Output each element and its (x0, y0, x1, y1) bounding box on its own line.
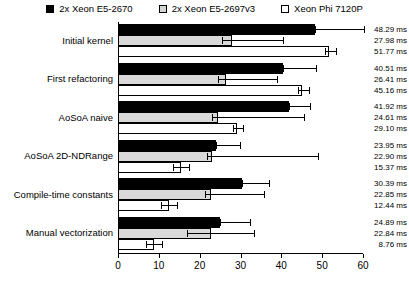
legend-swatch-icon-series-0 (46, 5, 54, 13)
bar-series-0 (118, 217, 220, 228)
error-bar-cap-high (189, 164, 190, 171)
bar-series-1 (118, 74, 226, 85)
error-bar-cap-low (298, 87, 299, 94)
error-bar-line (325, 51, 335, 52)
legend-swatch-icon-series-2 (281, 5, 289, 13)
x-axis-tick-label: 0 (115, 260, 121, 271)
benchmark-bar-chart: 2x Xeon E5-2670 2x Xeon E5-2697v3 Xeon P… (0, 0, 409, 283)
x-axis-tick (118, 254, 119, 258)
x-axis-tick (200, 254, 201, 258)
error-bar-line (212, 117, 304, 118)
error-bar-cap-high (316, 65, 317, 72)
error-bar-cap-low (289, 103, 290, 110)
bar-row (118, 46, 363, 57)
legend-label-series-2: Xeon Phi 7120P (294, 4, 363, 14)
x-axis-tick-label: 10 (153, 260, 164, 271)
bar-series-2 (118, 85, 302, 96)
error-bar-cap-low (315, 26, 316, 33)
value-label: 22.85 ms (366, 190, 409, 199)
value-label: 29.10 ms (366, 124, 409, 133)
x-axis-tick (322, 254, 323, 258)
category-label: First refactoring (0, 73, 113, 84)
bar-row (118, 74, 363, 85)
value-label: 30.39 ms (366, 179, 409, 188)
error-bar-line (173, 167, 189, 168)
bar-series-1 (118, 189, 211, 200)
value-label: 23.95 ms (366, 141, 409, 150)
error-bar-cap-high (310, 103, 311, 110)
error-bar-cap-low (161, 202, 162, 209)
value-label: 51.77 ms (366, 47, 409, 56)
x-axis-tick (241, 254, 242, 258)
error-bar-line (161, 205, 177, 206)
error-bar-cap-low (216, 142, 217, 149)
error-bar-cap-low (205, 191, 206, 198)
error-bar-cap-low (283, 65, 284, 72)
bar-series-0 (118, 178, 242, 189)
legend-item-series-2: Xeon Phi 7120P (281, 4, 363, 14)
error-bar-cap-high (336, 48, 337, 55)
error-bar-cap-high (304, 114, 305, 121)
error-bar-cap-high (264, 191, 265, 198)
error-bar-line (207, 156, 317, 157)
category-label: AoSoA 2D-NDRange (0, 150, 113, 161)
value-label: 48.29 ms (366, 25, 409, 34)
error-bar-line (298, 90, 308, 91)
error-bar-line (187, 233, 254, 234)
error-bar-cap-low (146, 241, 147, 248)
error-bar-line (315, 29, 364, 30)
bar-row (118, 112, 363, 123)
bar-row (118, 228, 363, 239)
error-bar-line (220, 222, 251, 223)
bar-series-0 (118, 24, 315, 35)
error-bar-line (218, 79, 277, 80)
value-label: 26.41 ms (366, 75, 409, 84)
legend-label-series-1: 2x Xeon E5-2697v3 (172, 4, 255, 14)
category-label: Manual vectorization (0, 227, 113, 238)
error-bar-line (242, 183, 269, 184)
x-axis-tick-label: 30 (235, 260, 246, 271)
chart-legend: 2x Xeon E5-2670 2x Xeon E5-2697v3 Xeon P… (0, 0, 409, 18)
bar-row (118, 63, 363, 74)
bar-row (118, 200, 363, 211)
legend-label-series-0: 2x Xeon E5-2670 (59, 4, 132, 14)
error-bar-cap-high (309, 87, 310, 94)
error-bar-line (289, 106, 309, 107)
error-bar-line (216, 145, 241, 146)
bar-row (118, 101, 363, 112)
category-label: Initial kernel (0, 35, 113, 46)
bar-row (118, 151, 363, 162)
value-label: 15.37 ms (366, 163, 409, 172)
x-axis-tick-label: 60 (357, 260, 368, 271)
error-bar-cap-low (220, 219, 221, 226)
bar-series-1 (118, 35, 232, 46)
error-bar-cap-high (254, 230, 255, 237)
error-bar-cap-high (177, 202, 178, 209)
bar-row (118, 140, 363, 151)
bar-row (118, 35, 363, 46)
bar-row (118, 189, 363, 200)
error-bar-cap-high (318, 153, 319, 160)
bar-series-2 (118, 162, 181, 173)
category-label: AoSoA naive (0, 112, 113, 123)
x-axis-tick-label: 20 (194, 260, 205, 271)
bar-row (118, 239, 363, 250)
value-label: 12.44 ms (366, 201, 409, 210)
plot-area (118, 22, 363, 254)
error-bar-cap-low (222, 37, 223, 44)
error-bar-cap-high (269, 180, 270, 187)
value-label: 27.98 ms (366, 36, 409, 45)
bar-series-0 (118, 63, 283, 74)
value-label: 24.61 ms (366, 113, 409, 122)
x-axis-tick (159, 254, 160, 258)
value-label: 22.90 ms (366, 152, 409, 161)
bar-row (118, 24, 363, 35)
error-bar-cap-high (283, 37, 284, 44)
value-label: 24.89 ms (366, 218, 409, 227)
error-bar-cap-low (325, 48, 326, 55)
x-axis-tick-label: 50 (317, 260, 328, 271)
error-bar-cap-high (162, 241, 163, 248)
bar-row (118, 217, 363, 228)
error-bar-cap-low (207, 153, 208, 160)
legend-item-series-1: 2x Xeon E5-2697v3 (159, 4, 255, 14)
